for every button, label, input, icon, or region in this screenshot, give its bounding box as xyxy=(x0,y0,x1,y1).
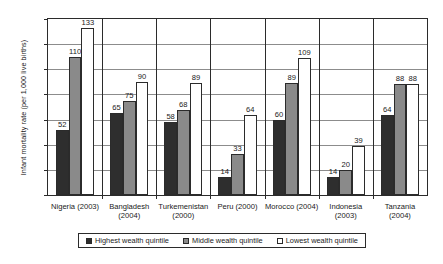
legend-label: Middle wealth quintile xyxy=(192,236,263,245)
x-axis-category-label: Peru (2000) xyxy=(217,202,257,211)
bar xyxy=(190,83,203,195)
gridline xyxy=(48,120,427,121)
bar xyxy=(394,84,407,195)
group-separator xyxy=(102,19,103,195)
bar-value-label: 33 xyxy=(233,144,241,153)
legend-swatch-icon xyxy=(183,238,189,244)
bar-value-label: 88 xyxy=(408,74,416,83)
bar-value-label: 110 xyxy=(69,47,81,56)
bar xyxy=(339,170,352,195)
x-axis-tick-mark xyxy=(156,195,157,199)
bar-value-label: 133 xyxy=(81,18,94,27)
chart-figure: Infant mortality rate (per 1,000 live bi… xyxy=(0,0,443,264)
bar xyxy=(56,130,69,195)
bar-value-label: 90 xyxy=(138,72,146,81)
x-axis-category-label: Nigeria (2003) xyxy=(51,202,99,211)
bar xyxy=(177,110,190,195)
bar-value-label: 58 xyxy=(166,112,174,121)
bar xyxy=(110,113,123,195)
legend-swatch-icon xyxy=(277,238,283,244)
legend-label: Highest wealth quintile xyxy=(95,236,169,245)
x-axis-tick-mark xyxy=(210,195,211,199)
bar xyxy=(273,120,286,195)
plot-area: 5211013365759058688914336460891091420396… xyxy=(47,18,428,196)
group-separator xyxy=(319,19,320,195)
group-separator xyxy=(373,19,374,195)
x-axis-category-label: Indonesia (2003) xyxy=(329,202,362,220)
bar xyxy=(231,154,244,195)
bar-value-label: 75 xyxy=(125,91,133,100)
bar-value-label: 88 xyxy=(396,74,404,83)
x-axis-tick-mark xyxy=(373,195,374,199)
bar xyxy=(123,101,136,195)
group-separator xyxy=(265,19,266,195)
x-axis-category-label: Morocco (2004) xyxy=(265,202,318,211)
group-separator xyxy=(156,19,157,195)
group-separator xyxy=(210,19,211,195)
legend-swatch-icon xyxy=(86,238,92,244)
bar-value-label: 109 xyxy=(298,48,311,57)
bar xyxy=(69,57,82,195)
bar xyxy=(327,177,340,195)
bar-value-label: 39 xyxy=(354,136,362,145)
bar-value-label: 14 xyxy=(221,167,229,176)
bar xyxy=(298,58,311,195)
bar-value-label: 64 xyxy=(246,105,254,114)
x-axis-tick-mark xyxy=(265,195,266,199)
bar-value-label: 89 xyxy=(192,73,200,82)
bar xyxy=(164,122,177,195)
legend-label: Lowest wealth quintile xyxy=(286,236,358,245)
bar xyxy=(244,115,257,195)
legend-item: Lowest wealth quintile xyxy=(277,236,358,245)
x-axis-tick-mark xyxy=(319,195,320,199)
bar-value-label: 89 xyxy=(287,73,295,82)
legend-item: Highest wealth quintile xyxy=(86,236,169,245)
bar-value-label: 64 xyxy=(383,105,391,114)
bar-value-label: 20 xyxy=(342,160,350,169)
bar xyxy=(218,177,231,195)
x-axis-category-label: Turkemenistan (2000) xyxy=(158,202,208,220)
gridline xyxy=(48,44,427,45)
bar xyxy=(81,28,94,195)
bar xyxy=(285,83,298,195)
bar xyxy=(381,115,394,195)
bar-value-label: 52 xyxy=(58,120,66,129)
x-axis-category-label: Tanzania (2004) xyxy=(378,202,421,220)
bar-value-label: 65 xyxy=(112,103,120,112)
legend-item: Middle wealth quintile xyxy=(183,236,263,245)
bar xyxy=(406,84,419,195)
x-axis-category-label: Bangladesh (2004) xyxy=(109,202,149,220)
bar-value-label: 68 xyxy=(179,100,187,109)
y-axis-title: Infant mortality rate (per 1,000 live bi… xyxy=(19,15,28,201)
gridline xyxy=(48,94,427,95)
x-axis-tick-mark xyxy=(102,195,103,199)
gridline xyxy=(48,69,427,70)
bar xyxy=(136,82,149,195)
bar xyxy=(352,146,365,195)
chart-legend: Highest wealth quintileMiddle wealth qui… xyxy=(78,233,366,248)
bar-value-label: 14 xyxy=(329,167,337,176)
bar-value-label: 60 xyxy=(275,110,283,119)
